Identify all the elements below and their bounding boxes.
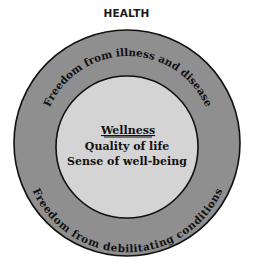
health-concentric-diagram: Freedom from illness and disease Freedom… [0,0,253,278]
wellness-line-quality-of-life: Quality of life [85,140,169,153]
wellness-heading: Wellness [100,124,155,137]
wellness-line-sense-of-well-being: Sense of well-being [67,155,187,168]
